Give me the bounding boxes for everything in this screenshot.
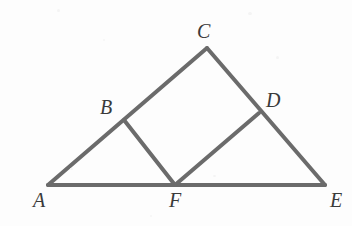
scan-speck [248, 12, 252, 15]
scan-speck [213, 175, 216, 177]
segment-A-C [48, 48, 207, 185]
scan-speck [70, 168, 73, 170]
segment-F-D [175, 113, 259, 185]
vertex-label-b: B [100, 97, 112, 117]
vertex-label-c: C [197, 21, 210, 41]
segment-C-E [207, 48, 325, 185]
segment-B-F [124, 120, 175, 185]
segments-group [48, 48, 325, 185]
vertex-label-f: F [169, 190, 181, 210]
scan-speck [150, 215, 152, 217]
scan-speck [57, 9, 60, 12]
vertex-label-d: D [266, 90, 280, 110]
vertex-label-e: E [330, 190, 342, 210]
scan-speck [103, 39, 105, 41]
geometry-figure: C B D A F E [0, 0, 352, 226]
vertex-label-a: A [33, 190, 45, 210]
scan-speck [276, 56, 279, 59]
